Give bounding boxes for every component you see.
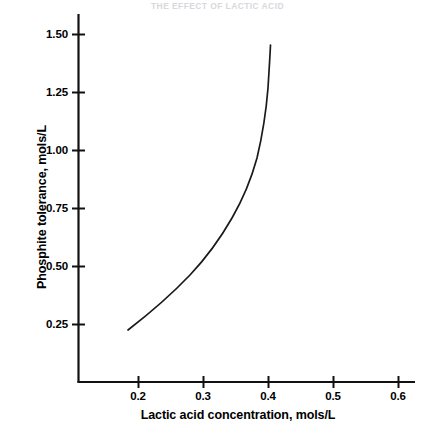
- y-axis-title: Phosphite tolerance, mols/L: [35, 82, 49, 332]
- data-series-curve: [128, 45, 271, 330]
- x-tick-label-0.3: 0.3: [183, 390, 223, 402]
- x-tick-label-0.2: 0.2: [118, 390, 158, 402]
- axes-group: [78, 14, 416, 383]
- y-tick-label-1.50: 1.50: [22, 28, 68, 40]
- chart-figure: THE EFFECT OF LACTIC ACID 1.50 1.25 1.00…: [0, 0, 435, 437]
- x-axis-title: Lactic acid concentration, mols/L: [58, 408, 418, 422]
- x-tick-label-0.6: 0.6: [378, 390, 418, 402]
- x-tick-label-0.4: 0.4: [248, 390, 288, 402]
- x-tick-label-0.5: 0.5: [313, 390, 353, 402]
- plot-canvas: [0, 0, 435, 437]
